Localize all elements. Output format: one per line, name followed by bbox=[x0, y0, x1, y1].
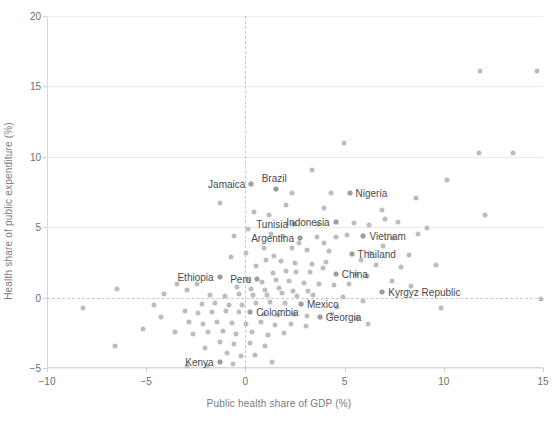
data-point bbox=[152, 303, 157, 308]
data-point bbox=[228, 255, 233, 260]
point-label: Colombia bbox=[256, 307, 298, 318]
data-point bbox=[235, 285, 240, 290]
data-point bbox=[162, 292, 167, 297]
x-axis-title: Public health share of GDP (%) bbox=[0, 398, 558, 409]
data-point bbox=[346, 281, 351, 286]
data-point bbox=[340, 294, 345, 299]
data-point bbox=[367, 223, 372, 228]
data-point bbox=[244, 250, 249, 255]
x-tick-mark bbox=[444, 368, 445, 372]
data-point bbox=[80, 306, 85, 311]
data-point bbox=[268, 299, 273, 304]
data-point bbox=[283, 301, 288, 306]
data-point bbox=[267, 213, 272, 218]
gridline bbox=[47, 368, 543, 369]
x-tick-label: 15 bbox=[537, 376, 548, 387]
data-point bbox=[230, 361, 235, 366]
data-point-labeled bbox=[217, 275, 222, 280]
data-point bbox=[263, 344, 268, 349]
data-point bbox=[202, 346, 207, 351]
data-point bbox=[244, 322, 249, 327]
data-point bbox=[290, 246, 295, 251]
data-point bbox=[182, 308, 187, 313]
data-point bbox=[113, 344, 118, 349]
data-point bbox=[159, 315, 164, 320]
data-point bbox=[328, 190, 333, 195]
data-point bbox=[284, 268, 289, 273]
data-point-labeled bbox=[380, 289, 385, 294]
y-tick-label: 5 bbox=[35, 222, 41, 233]
data-point bbox=[296, 240, 301, 245]
data-point bbox=[220, 328, 225, 333]
data-point bbox=[307, 269, 312, 274]
y-tick-label: 20 bbox=[30, 11, 41, 22]
data-point bbox=[293, 270, 298, 275]
data-point bbox=[265, 292, 270, 297]
plot-area: −505101520 −10−5051015 JamaicaBrazilNige… bbox=[47, 16, 543, 368]
data-point bbox=[279, 258, 284, 263]
data-point bbox=[186, 320, 191, 325]
data-point bbox=[290, 191, 295, 196]
y-tick-mark bbox=[43, 298, 47, 299]
data-point-labeled bbox=[217, 359, 222, 364]
data-point bbox=[260, 280, 265, 285]
data-point bbox=[195, 311, 200, 316]
x-tick-mark bbox=[245, 368, 246, 372]
data-point-labeled bbox=[274, 187, 279, 192]
x-tick-label: −10 bbox=[39, 376, 56, 387]
data-point bbox=[399, 265, 404, 270]
point-label: Indonesia bbox=[286, 217, 329, 228]
y-tick-label: −5 bbox=[30, 363, 41, 374]
point-label: Georgia bbox=[326, 311, 362, 322]
point-label: Mexico bbox=[307, 298, 339, 309]
data-point bbox=[320, 266, 325, 271]
y-axis-title: Health share of public expenditure (%) bbox=[0, 0, 16, 422]
data-point-labeled bbox=[249, 182, 254, 187]
data-point-labeled bbox=[248, 310, 253, 315]
data-point bbox=[293, 261, 298, 266]
point-label: Ethiopia bbox=[177, 272, 213, 283]
y-tick-label: 0 bbox=[35, 292, 41, 303]
data-point bbox=[259, 320, 264, 325]
data-point bbox=[209, 310, 214, 315]
data-point bbox=[316, 282, 321, 287]
data-point-labeled bbox=[255, 276, 260, 281]
data-point bbox=[272, 254, 277, 259]
data-point bbox=[309, 261, 314, 266]
data-point bbox=[190, 332, 195, 337]
data-point bbox=[416, 231, 421, 236]
point-label: Brazil bbox=[262, 173, 287, 184]
data-point bbox=[438, 306, 443, 311]
data-point bbox=[331, 282, 336, 287]
data-point bbox=[217, 200, 222, 205]
data-point bbox=[254, 300, 259, 305]
x-tick-label: 10 bbox=[438, 376, 449, 387]
point-label: Vietnam bbox=[369, 231, 406, 242]
gridline bbox=[47, 16, 543, 17]
data-point bbox=[381, 243, 386, 248]
data-point bbox=[254, 263, 259, 268]
data-point bbox=[251, 293, 256, 298]
data-point bbox=[115, 287, 120, 292]
data-point bbox=[282, 330, 287, 335]
data-point bbox=[321, 241, 326, 246]
y-tick-mark bbox=[43, 157, 47, 158]
point-label: Kenya bbox=[185, 356, 213, 367]
scatter-chart: Health share of public expenditure (%) P… bbox=[0, 0, 558, 422]
data-point bbox=[237, 292, 242, 297]
data-point bbox=[390, 279, 395, 284]
data-point bbox=[271, 270, 276, 275]
y-axis-title-text: Health share of public expenditure (%) bbox=[3, 122, 14, 300]
data-point bbox=[253, 352, 258, 357]
data-point bbox=[246, 226, 251, 231]
data-point-labeled bbox=[347, 190, 352, 195]
x-tick-mark bbox=[543, 368, 544, 372]
data-point-labeled bbox=[297, 235, 302, 240]
data-point bbox=[304, 313, 309, 318]
data-point bbox=[289, 321, 294, 326]
data-point bbox=[199, 301, 204, 306]
gridline bbox=[47, 86, 543, 87]
data-point bbox=[232, 342, 237, 347]
x-tick-label: 5 bbox=[342, 376, 348, 387]
data-point bbox=[294, 294, 299, 299]
